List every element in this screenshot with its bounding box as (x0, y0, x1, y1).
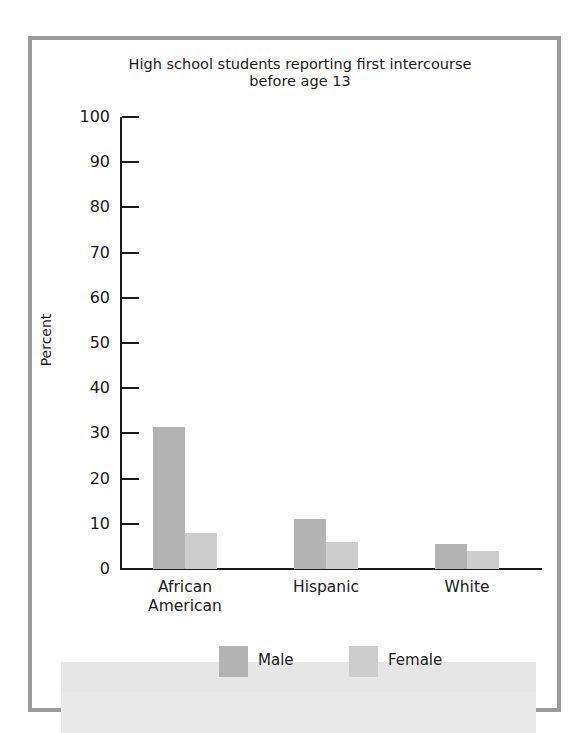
x-category-label: Hispanic (266, 578, 386, 597)
y-tick-label: 50 (60, 333, 110, 352)
chart-title: High school students reporting first int… (110, 56, 490, 90)
x-category-label: White (407, 578, 527, 597)
bar-male (153, 427, 185, 569)
y-tick (122, 568, 139, 570)
y-tick (122, 252, 139, 254)
legend-label-female: Female (388, 651, 442, 669)
caption-band (61, 692, 536, 733)
y-tick (122, 432, 139, 434)
legend-label-male: Male (258, 651, 294, 669)
y-tick (122, 206, 139, 208)
figure-frame (28, 36, 561, 712)
y-axis-label: Percent (38, 314, 54, 367)
y-tick (122, 342, 139, 344)
y-tick-label: 0 (60, 559, 110, 578)
y-tick (122, 161, 139, 163)
y-tick (122, 297, 139, 299)
bar-female (185, 533, 217, 569)
y-tick (122, 523, 139, 525)
y-tick (122, 116, 139, 118)
chart-title-line2: before age 13 (110, 73, 490, 90)
bar-female (326, 542, 358, 569)
bar-female (467, 551, 499, 569)
y-tick (122, 478, 139, 480)
bar-male (435, 544, 467, 569)
y-tick-label: 80 (60, 197, 110, 216)
y-tick-label: 100 (60, 107, 110, 126)
legend-swatch-female (349, 646, 378, 677)
legend-swatch-male (219, 646, 248, 677)
y-tick-label: 40 (60, 378, 110, 397)
bar-male (294, 519, 326, 569)
y-tick-label: 30 (60, 423, 110, 442)
y-tick-label: 60 (60, 288, 110, 307)
y-tick-label: 70 (60, 243, 110, 262)
chart-title-line1: High school students reporting first int… (110, 56, 490, 73)
y-tick-label: 20 (60, 469, 110, 488)
x-category-label: AfricanAmerican (125, 578, 245, 616)
y-tick-label: 90 (60, 152, 110, 171)
y-tick (122, 387, 139, 389)
caption-band-top (61, 662, 536, 692)
y-tick-label: 10 (60, 514, 110, 533)
